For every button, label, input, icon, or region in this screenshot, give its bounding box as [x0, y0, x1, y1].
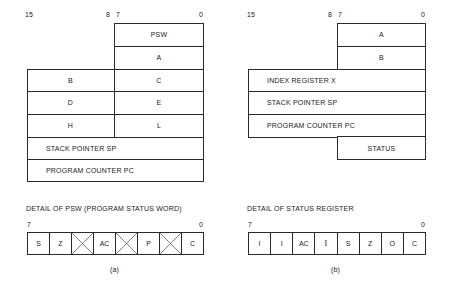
register-psw: PSW [114, 23, 204, 46]
bit-label-15: 15 [25, 11, 33, 18]
status-bit-interrupt: I [315, 233, 337, 254]
register-b: B [27, 69, 114, 91]
bit-label: C [190, 240, 195, 247]
register-stack-pointer: STACK POINTER SP [27, 137, 204, 159]
psw-bit-label-0: 0 [199, 221, 203, 228]
bit-label-0: 0 [421, 11, 425, 18]
status-bit-6: I [271, 233, 293, 254]
bit-label: AC [299, 240, 309, 247]
register-status: STATUS [337, 136, 426, 160]
psw-detail-title: DETAIL OF PSW (PROGRAM STATUS WORD) [26, 205, 182, 212]
bit-label-15: 15 [247, 11, 255, 18]
bit-label-8: 8 [106, 11, 110, 18]
bit-label: Z [58, 240, 62, 247]
register-program-counter: PROGRAM COUNTER PC [27, 159, 204, 182]
bit-label: I [259, 240, 261, 247]
psw-bit-carry: C [182, 233, 203, 254]
bit-label: AC [100, 240, 110, 247]
register-c: C [114, 69, 204, 91]
status-bit-field: I I AC I S Z O C [248, 232, 426, 255]
status-bit-overflow: O [382, 233, 404, 254]
psw-bit-sign: S [28, 233, 50, 254]
register-program-counter: PROGRAM COUNTER PC [248, 114, 426, 137]
register-index-x: INDEX REGISTER X [248, 69, 426, 91]
bit-label: S [346, 240, 351, 247]
psw-bit-zero: Z [50, 233, 72, 254]
status-detail-title: DETAIL OF STATUS REGISTER [247, 205, 354, 212]
status-bit-label-7: 7 [248, 221, 252, 228]
register-a: A [114, 46, 204, 69]
psw-bit-unused [116, 233, 138, 254]
psw-bit-parity: P [138, 233, 160, 254]
bit-label: O [390, 240, 395, 247]
register-e: E [114, 91, 204, 114]
caption-b: (b) [331, 266, 340, 273]
bit-label: C [412, 240, 417, 247]
status-bit-7: I [249, 233, 271, 254]
psw-bit-unused [160, 233, 182, 254]
bit-label: P [146, 240, 151, 247]
psw-bit-unused [72, 233, 94, 254]
register-stack-pointer: STACK POINTER SP [248, 91, 426, 114]
psw-bit-label-7: 7 [27, 221, 31, 228]
status-bit-zero: Z [360, 233, 382, 254]
unused-cross-icon [160, 233, 181, 254]
bit-label-7: 7 [338, 11, 342, 18]
register-d: D [27, 91, 114, 114]
bit-label: Z [368, 240, 372, 247]
unused-cross-icon [116, 233, 137, 254]
psw-bit-field: S Z AC P C [27, 232, 204, 255]
status-bit-label-0: 0 [421, 221, 425, 228]
bit-label: I [281, 240, 283, 247]
bit-label-0: 0 [199, 11, 203, 18]
psw-bit-aux-carry: AC [94, 233, 116, 254]
register-b: B [337, 46, 426, 69]
unused-cross-icon [72, 233, 93, 254]
bit-label: I [325, 239, 328, 248]
bit-label-8: 8 [328, 11, 332, 18]
status-bit-carry: C [404, 233, 425, 254]
status-bit-aux-carry: AC [293, 233, 315, 254]
register-l: L [114, 114, 204, 137]
bit-label: S [36, 240, 41, 247]
register-a: A [337, 23, 426, 46]
bit-label-7: 7 [116, 11, 120, 18]
status-bit-sign: S [338, 233, 360, 254]
register-h: H [27, 114, 114, 137]
caption-a: (a) [110, 266, 119, 273]
